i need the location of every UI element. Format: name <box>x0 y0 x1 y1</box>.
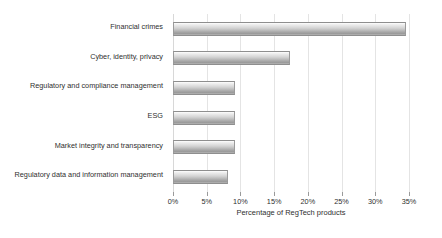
category-label-text: Regulatory data and information manageme… <box>15 170 163 179</box>
category-label-text: Regulatory and compliance management <box>30 81 163 90</box>
category-label: Cyber, identity, privacy <box>0 52 168 61</box>
x-tick-label: 5% <box>201 197 212 206</box>
x-tick-label: 0% <box>168 197 179 206</box>
bar <box>173 81 235 95</box>
bar-row <box>173 162 409 192</box>
x-tick-mark <box>409 192 410 196</box>
x-tick-label: 10% <box>233 197 248 206</box>
bar <box>173 170 228 184</box>
bar-row <box>173 73 409 103</box>
category-label: Financial crimes <box>0 22 168 31</box>
bar <box>173 51 290 65</box>
x-tick-label: 15% <box>267 197 282 206</box>
bar-row <box>173 103 409 133</box>
category-label-text: Cyber, identity, privacy <box>90 52 163 61</box>
x-tick-label: 35% <box>402 197 417 206</box>
category-label: Regulatory data and information manageme… <box>0 170 168 179</box>
x-tick-mark <box>308 192 309 196</box>
x-tick-mark <box>207 192 208 196</box>
bar <box>173 140 235 154</box>
category-label: Market integrity and transparency <box>0 141 168 150</box>
bar-row <box>173 44 409 74</box>
x-tick-label: 30% <box>368 197 383 206</box>
bar <box>173 111 235 125</box>
x-tick-mark <box>375 192 376 196</box>
x-tick-mark <box>342 192 343 196</box>
x-tick-mark <box>274 192 275 196</box>
category-label-text: Financial crimes <box>110 22 163 31</box>
x-tick-label: 25% <box>334 197 349 206</box>
category-label-text: Market integrity and transparency <box>55 141 163 150</box>
x-tick-mark <box>173 192 174 196</box>
bar-row <box>173 14 409 44</box>
bar <box>173 22 406 36</box>
x-axis-title: Percentage of RegTech products <box>173 208 409 218</box>
gridline-35 <box>409 14 410 192</box>
category-label-text: ESG <box>148 111 163 120</box>
plot-area <box>173 14 409 192</box>
bar-row <box>173 133 409 163</box>
category-label: Regulatory and compliance management <box>0 81 168 90</box>
category-label: ESG <box>0 111 168 120</box>
x-tick-mark <box>240 192 241 196</box>
x-tick-label: 20% <box>301 197 316 206</box>
bar-chart-figure: Financial crimes Cyber, identity, privac… <box>0 0 442 238</box>
